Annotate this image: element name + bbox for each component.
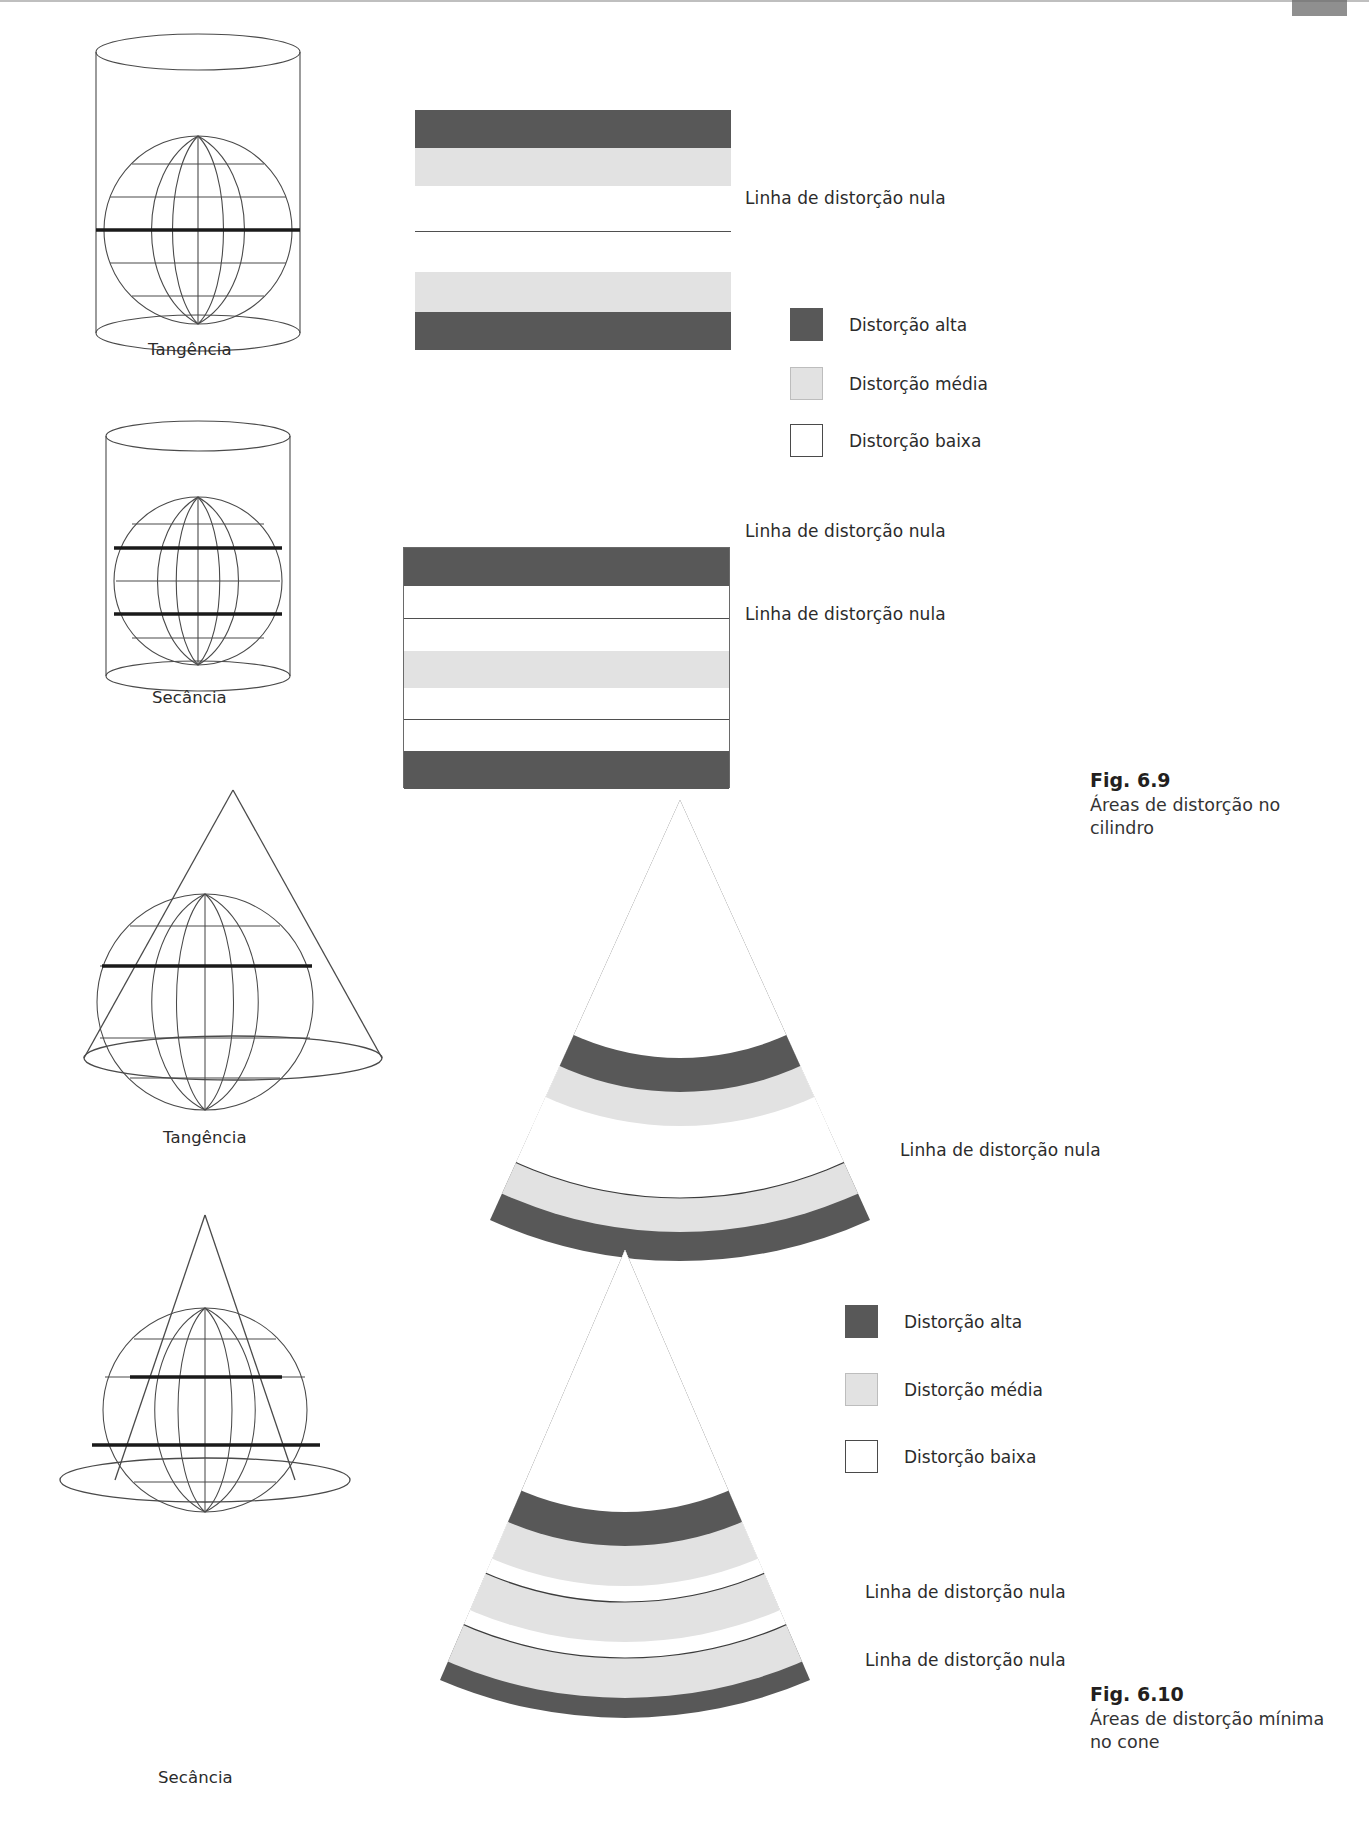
band-baixa [415,231,731,272]
band-media [404,651,729,688]
caption-body-6-10: Áreas de distorção mínima no cone [1090,1708,1340,1755]
band-media [415,148,731,186]
legend-label-low: Distorção baixa [849,431,981,451]
caption-body-6-9: Áreas de distorção no cilindro [1090,794,1340,841]
cylinder-secant-annotation-1: Linha de distorção nula [745,604,946,624]
band-media [415,272,731,312]
band-baixa [404,586,729,618]
caption-fig-6-9: Fig. 6.9 Áreas de distorção no cilindro [1090,768,1340,841]
cone-secant-label: Secância [158,1768,233,1787]
cone-secant-annotation-0: Linha de distorção nula [865,1582,1066,1602]
legend-item-low-6-9: Distorção baixa [790,424,981,457]
cylinder-tangent-bands [415,110,731,350]
swatch-medium-icon [790,367,823,400]
cone-secant-globe [30,1205,400,1530]
caption-fig-6-10: Fig. 6.10 Áreas de distorção mínima no c… [1090,1682,1340,1755]
band-alta [415,312,731,350]
band-alta [404,548,729,586]
band-baixa [404,618,729,651]
caption-title-6-10: Fig. 6.10 [1090,1682,1340,1708]
legend-label-high: Distorção alta [904,1312,1022,1332]
cone-secant-annotation-1: Linha de distorção nula [865,1650,1066,1670]
swatch-low-icon [845,1440,878,1473]
legend-label-medium: Distorção média [904,1380,1043,1400]
swatch-medium-icon [845,1373,878,1406]
zero-distortion-line [415,231,731,232]
band-alta [404,751,729,789]
legend-item-high-6-10: Distorção alta [845,1305,1022,1338]
legend-label-medium: Distorção média [849,374,988,394]
cylinder-secant-bands [403,547,730,788]
cylinder-tangent-annotation-0: Linha de distorção nula [745,188,946,208]
legend-label-high: Distorção alta [849,315,967,335]
swatch-high-icon [845,1305,878,1338]
cone-tangent-globe [30,780,400,1110]
zero-distortion-line [404,719,729,720]
band-alta [415,110,731,148]
page-header-rule [0,0,1369,2]
page-number-marker [1292,0,1347,16]
legend-item-high-6-9: Distorção alta [790,308,967,341]
legend-item-medium-6-10: Distorção média [845,1373,1043,1406]
cylinder-secant-annotation-0: Linha de distorção nula [745,521,946,541]
cylinder-secant-globe [88,418,318,708]
cylinder-tangent-label: Tangência [148,340,232,359]
cone-secant-bands [410,1500,840,1690]
band-baixa [404,688,729,719]
band-baixa [404,719,729,751]
caption-title-6-9: Fig. 6.9 [1090,768,1340,794]
zero-distortion-line [404,618,729,619]
legend-item-low-6-10: Distorção baixa [845,1440,1036,1473]
swatch-high-icon [790,308,823,341]
band-baixa [415,186,731,231]
legend-item-medium-6-9: Distorção média [790,367,988,400]
cone-tangent-label: Tangência [163,1128,247,1147]
swatch-low-icon [790,424,823,457]
cylinder-tangent-globe [88,30,318,375]
legend-label-low: Distorção baixa [904,1447,1036,1467]
cone-tangent-bands [470,1060,890,1240]
cylinder-secant-label: Secância [152,688,227,707]
cone-tangent-annotation-0: Linha de distorção nula [900,1140,1101,1160]
